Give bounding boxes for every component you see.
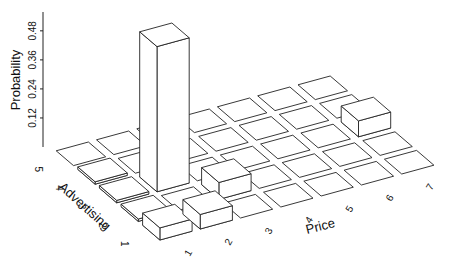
z-tick-label: 0.36 — [27, 50, 38, 70]
chart-canvas: 0.120.240.360.48 Probability 1234567 123… — [0, 0, 452, 259]
floor-cell — [239, 117, 289, 141]
floor-cell — [344, 161, 394, 185]
price-tick-label: 2 — [222, 236, 235, 247]
price-tick-label: 1 — [182, 247, 195, 258]
z-tick-label: 0.24 — [27, 79, 38, 99]
price-tick-label: 7 — [424, 181, 437, 192]
floor-cell — [261, 135, 311, 159]
floor-cell — [279, 106, 329, 130]
floor-cell — [264, 183, 314, 207]
bar3d-chart: 0.120.240.360.48 Probability 1234567 123… — [0, 0, 452, 259]
advertising-tick-label: 5 — [33, 167, 44, 173]
z-axis: 0.120.240.360.48 Probability — [8, 12, 43, 147]
floor-cell — [199, 128, 249, 152]
floor-cell — [363, 132, 413, 156]
z-axis-ticks: 0.120.240.360.48 — [27, 21, 43, 128]
bar-side-face — [140, 32, 157, 192]
advertising-tick-label: 1 — [119, 241, 130, 247]
floor-cell — [97, 131, 147, 155]
price-tick-label: 6 — [383, 192, 396, 203]
z-tick-label: 0.48 — [27, 21, 38, 41]
floor-cell — [258, 87, 308, 111]
z-axis-label: Probability — [8, 49, 23, 110]
floor-cell — [304, 172, 354, 196]
bar — [140, 23, 190, 192]
price-tick-label: 5 — [343, 203, 356, 214]
floor-cell — [323, 143, 373, 167]
floor-cell — [282, 154, 332, 178]
floor-cell — [298, 76, 348, 100]
price-tick-label: 3 — [263, 225, 276, 236]
z-tick-label: 0.12 — [27, 108, 38, 128]
floor-cell — [217, 98, 267, 122]
bar-front-face — [157, 38, 189, 192]
floor-cell — [301, 124, 351, 148]
floor-cell — [384, 150, 434, 174]
